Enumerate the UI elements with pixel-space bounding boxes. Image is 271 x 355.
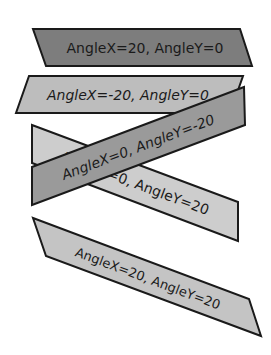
- shape-label: AngleX=-20, AngleY=0: [46, 87, 209, 103]
- transformed-shapes-canvas: AngleX=20, AngleY=0 AngleX=-20, AngleY=0…: [0, 0, 271, 355]
- shape-anglex-20-angley-0: AngleX=20, AngleY=0: [33, 29, 252, 66]
- shape-label: AngleX=20, AngleY=20: [73, 244, 222, 312]
- shape-label: AngleX=20, AngleY=0: [67, 40, 224, 56]
